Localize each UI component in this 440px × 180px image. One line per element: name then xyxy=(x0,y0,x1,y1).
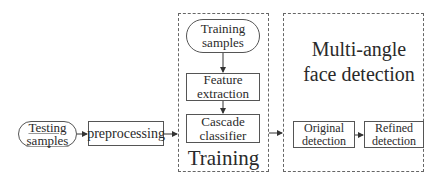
node-preprocessing: preprocessing xyxy=(88,121,164,146)
node-refined-detection-label: Refined detection xyxy=(367,122,421,148)
node-training-samples-label: Training samples xyxy=(195,22,251,50)
node-original-detection: Original detection xyxy=(293,121,355,148)
node-preprocessing-label: preprocessing xyxy=(87,127,165,141)
node-training-samples: Training samples xyxy=(186,19,260,53)
node-testing-samples: Testing samples xyxy=(18,121,77,147)
node-feature-extraction: Feature extraction xyxy=(186,73,260,101)
node-cascade-classifier: Cascade classifier xyxy=(186,114,260,143)
group-training-label: Training xyxy=(178,147,269,170)
node-testing-samples-label: Testing samples xyxy=(19,121,76,147)
group-detection-label: Multi-angle face detection xyxy=(300,37,418,87)
node-cascade-classifier-label: Cascade classifier xyxy=(195,115,251,143)
node-feature-extraction-label: Feature extraction xyxy=(191,73,255,101)
node-refined-detection: Refined detection xyxy=(364,121,424,148)
node-original-detection-label: Original detection xyxy=(297,122,351,148)
